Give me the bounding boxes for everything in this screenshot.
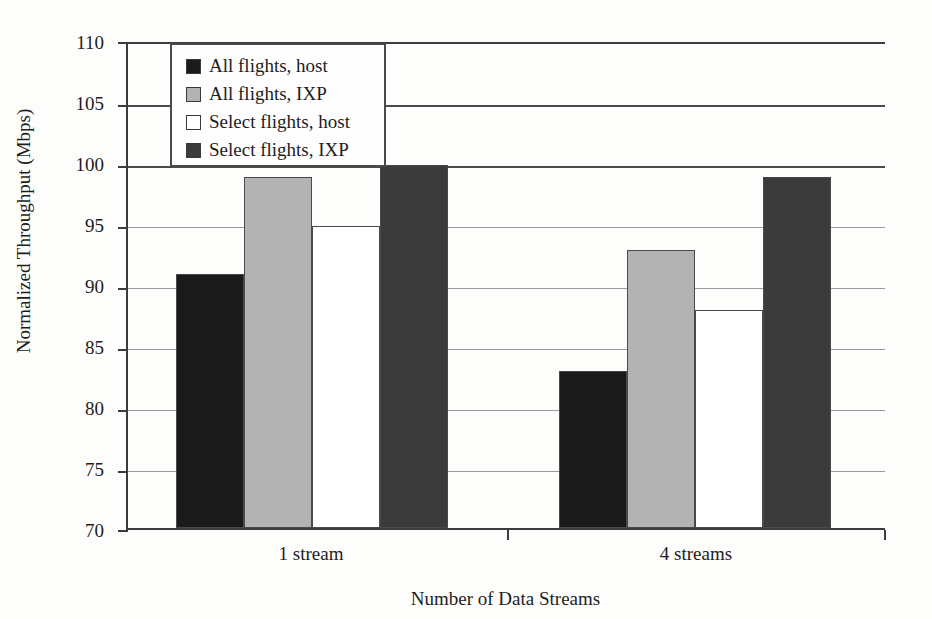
x-tick-end	[884, 530, 886, 540]
y-tick-90	[118, 288, 128, 290]
legend-item-select-flights-ixp: Select flights, IXP	[186, 136, 384, 164]
bar-4streams-select-flights-ixp	[763, 177, 831, 528]
y-tick-100	[118, 166, 128, 168]
legend-swatch-icon-dark-gray	[186, 143, 201, 158]
legend-label-select-flights-host: Select flights, host	[209, 111, 350, 133]
bar-4streams-select-flights-host	[695, 310, 763, 528]
y-tick-label-100: 100	[48, 154, 104, 176]
y-tick-70	[118, 530, 128, 532]
bar-4streams-all-flights-host	[559, 371, 627, 528]
legend-swatch-icon-light-gray	[186, 87, 201, 102]
bar-1stream-all-flights-ixp	[244, 177, 312, 528]
y-tick-label-90: 90	[48, 276, 104, 298]
y-tick-label-95: 95	[48, 215, 104, 237]
y-tick-label-75: 75	[48, 459, 104, 481]
y-tick-label-110: 110	[48, 32, 104, 54]
x-tick-label-4-streams: 4 streams	[596, 543, 796, 565]
y-tick-label-105: 105	[48, 93, 104, 115]
y-tick-label-85: 85	[48, 337, 104, 359]
y-tick-75	[118, 471, 128, 473]
bar-1stream-select-flights-ixp	[380, 165, 448, 528]
y-axis-title: Normalized Throughput (Mbps)	[13, 0, 35, 491]
legend-item-select-flights-host: Select flights, host	[186, 108, 384, 136]
bar-1stream-all-flights-host	[176, 274, 244, 528]
x-tick-label-1-stream: 1 stream	[211, 543, 411, 565]
y-tick-105	[118, 105, 128, 107]
y-tick-95	[118, 227, 128, 229]
legend-label-all-flights-host: All flights, host	[209, 55, 328, 77]
legend-item-all-flights-host: All flights, host	[186, 52, 384, 80]
legend-item-all-flights-ixp: All flights, IXP	[186, 80, 384, 108]
legend-label-all-flights-ixp: All flights, IXP	[209, 83, 327, 105]
legend-label-select-flights-ixp: Select flights, IXP	[209, 139, 349, 161]
legend-swatch-icon-black	[186, 59, 201, 74]
y-tick-80	[118, 410, 128, 412]
y-tick-110	[118, 42, 128, 44]
legend-swatch-icon-white	[186, 115, 201, 130]
bar-1stream-select-flights-host	[312, 226, 380, 529]
y-tick-label-70: 70	[48, 520, 104, 542]
chart-figure: 110 105 100 95 90 85 80 75 70 Normalized…	[0, 0, 932, 619]
x-tick-separator	[507, 530, 509, 540]
chart-legend: All flights, host All flights, IXP Selec…	[170, 43, 386, 167]
bar-4streams-all-flights-ixp	[627, 250, 695, 528]
x-axis-title: Number of Data Streams	[126, 588, 885, 610]
y-tick-85	[118, 349, 128, 351]
y-tick-label-80: 80	[48, 398, 104, 420]
